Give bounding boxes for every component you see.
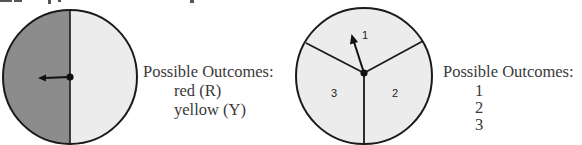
section-label-2: 2 <box>392 87 398 99</box>
cropped-top-strip <box>0 0 582 3</box>
spinner-section-red <box>0 0 70 145</box>
spinner-pivot <box>360 69 367 76</box>
section-label-3: 3 <box>331 87 337 99</box>
spinner-section-yellow <box>70 0 150 145</box>
section-label-1: 1 <box>362 29 368 41</box>
spinners-figure: Possible Outcomes: red (R) yellow (Y) 1 … <box>0 0 582 145</box>
outcomes-heading: Possible Outcomes: <box>143 62 274 81</box>
outcome-item: 3 <box>475 115 483 134</box>
outcomes-list-left: Possible Outcomes: red (R) yellow (Y) <box>143 62 274 119</box>
spinner-two-color <box>0 0 150 145</box>
spinner-three-number: 1 2 3 <box>296 8 432 145</box>
outcome-item: yellow (Y) <box>174 100 246 119</box>
outcomes-heading: Possible Outcomes: <box>443 62 574 81</box>
outcome-item: red (R) <box>174 81 221 100</box>
outcomes-list-right: Possible Outcomes: 1 2 3 <box>443 62 574 134</box>
spinner-pivot <box>66 73 73 80</box>
